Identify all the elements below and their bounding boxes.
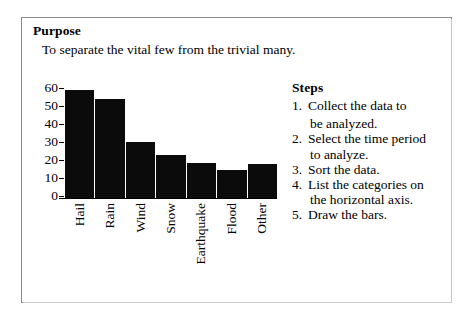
x-tick-label: Snow bbox=[164, 203, 178, 234]
y-tick-mark bbox=[59, 124, 64, 125]
y-tick-label: 50 bbox=[45, 99, 59, 112]
x-tick-label: Hail bbox=[73, 203, 87, 226]
purpose-text: To separate the vital few from the trivi… bbox=[42, 42, 295, 58]
purpose-heading: Purpose bbox=[33, 23, 81, 39]
pareto-chart: 6050403020100 HailRainWindSnowEarthquake… bbox=[32, 88, 287, 288]
plot-area bbox=[65, 88, 277, 198]
y-tick-mark bbox=[59, 142, 64, 143]
y-tick-mark bbox=[59, 178, 64, 179]
y-tick-label: 60 bbox=[45, 81, 59, 94]
bar-rain bbox=[95, 99, 124, 198]
x-label-cell: Wind bbox=[126, 201, 155, 286]
x-label-cell: Rain bbox=[95, 201, 124, 286]
content-card: Purpose To separate the vital few from t… bbox=[21, 17, 452, 303]
step-text-line1: Collect the data to bbox=[308, 98, 447, 113]
page-root: Purpose To separate the vital few from t… bbox=[0, 0, 472, 322]
y-tick-mark bbox=[59, 160, 64, 161]
y-tick-mark bbox=[59, 88, 64, 89]
step-item: 5.Draw the bars. bbox=[292, 207, 447, 222]
step-text-line2: be analyzed. bbox=[308, 116, 447, 131]
step-number: 4. bbox=[292, 177, 302, 192]
step-number: 1. bbox=[292, 98, 302, 113]
x-axis-labels: HailRainWindSnowEarthquakeFloodOther bbox=[65, 201, 277, 286]
y-tick-label: 0 bbox=[51, 189, 58, 202]
step-number: 5. bbox=[292, 207, 302, 222]
y-tick-mark bbox=[59, 106, 64, 107]
y-tick-mark bbox=[59, 196, 64, 197]
bar-other bbox=[248, 164, 277, 198]
bar-hail bbox=[65, 90, 94, 198]
steps-block: Steps 1.Collect the data tobe analyzed.2… bbox=[292, 80, 447, 223]
step-number: 3. bbox=[292, 162, 302, 177]
x-axis-line bbox=[59, 198, 277, 199]
x-tick-label: Rain bbox=[103, 203, 117, 229]
y-tick-label: 40 bbox=[45, 117, 59, 130]
x-tick-label: Flood bbox=[225, 203, 239, 235]
step-text-line2: the horizontal axis. bbox=[308, 192, 447, 207]
x-label-cell: Earthquake bbox=[187, 201, 216, 286]
x-tick-label: Other bbox=[255, 203, 269, 234]
step-text-line1: Select the time period bbox=[308, 131, 447, 146]
step-item: 2.Select the time periodto analyze. bbox=[292, 131, 447, 161]
step-item: 4.List the categories onthe horizontal a… bbox=[292, 177, 447, 207]
y-tick-label: 10 bbox=[45, 171, 59, 184]
step-item: 1.Collect the data tobe analyzed. bbox=[292, 98, 447, 131]
steps-heading: Steps bbox=[292, 80, 447, 96]
x-label-cell: Hail bbox=[65, 201, 94, 286]
bar-series bbox=[65, 90, 277, 198]
y-tick-label: 30 bbox=[45, 135, 59, 148]
step-text-line1: Draw the bars. bbox=[308, 207, 447, 222]
step-text-line1: List the categories on bbox=[308, 177, 447, 192]
x-tick-label: Wind bbox=[134, 203, 148, 232]
bar-snow bbox=[156, 155, 185, 198]
x-label-cell: Snow bbox=[156, 201, 185, 286]
step-text-line2: to analyze. bbox=[308, 147, 447, 162]
y-axis: 6050403020100 bbox=[32, 88, 58, 198]
y-tick-label: 20 bbox=[45, 153, 59, 166]
bar-earthquake bbox=[187, 163, 216, 198]
step-item: 3.Sort the data. bbox=[292, 162, 447, 177]
steps-list: 1.Collect the data tobe analyzed.2.Selec… bbox=[292, 98, 447, 223]
x-label-cell: Other bbox=[248, 201, 277, 286]
x-label-cell: Flood bbox=[217, 201, 246, 286]
bar-flood bbox=[217, 170, 246, 198]
bar-wind bbox=[126, 142, 155, 198]
step-text-line1: Sort the data. bbox=[308, 162, 447, 177]
step-number: 2. bbox=[292, 131, 302, 146]
x-tick-label: Earthquake bbox=[195, 203, 209, 264]
